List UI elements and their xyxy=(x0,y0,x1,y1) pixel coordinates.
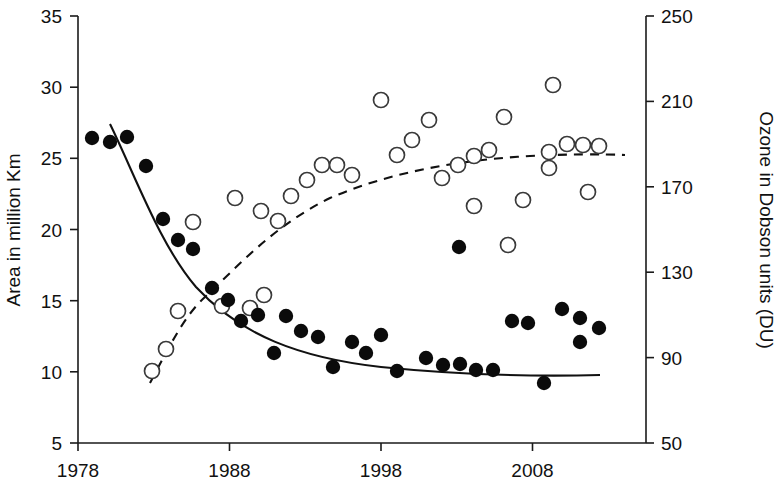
data-point-filled xyxy=(359,346,373,360)
y-left-label-20: 20 xyxy=(41,220,62,241)
y-left-label-30: 30 xyxy=(41,77,62,98)
y-axis-right-title: Ozone in Dobson units (DU) xyxy=(756,111,777,349)
y-left-label-25: 25 xyxy=(41,148,62,169)
data-point-filled xyxy=(156,212,170,226)
data-point-open xyxy=(171,304,186,319)
y-right-label-130: 130 xyxy=(661,262,693,283)
x-label-2008: 2008 xyxy=(511,460,553,481)
y-right-label-50: 50 xyxy=(661,433,682,454)
y-right-label-90: 90 xyxy=(661,348,682,369)
data-point-open xyxy=(467,149,482,164)
y-right-label-250: 250 xyxy=(661,6,693,27)
data-point-filled xyxy=(345,335,359,349)
y-axis-left-ticks xyxy=(70,16,78,443)
data-point-filled xyxy=(171,233,185,247)
data-point-filled xyxy=(139,159,153,173)
data-point-filled xyxy=(374,328,388,342)
data-point-filled xyxy=(436,358,450,372)
y-axis-right-ticks xyxy=(646,16,654,443)
data-point-filled xyxy=(505,314,519,328)
data-point-open xyxy=(159,342,174,357)
x-label-1998: 1998 xyxy=(360,460,402,481)
data-point-filled xyxy=(521,316,535,330)
data-point-open xyxy=(467,199,482,214)
y-right-label-170: 170 xyxy=(661,177,693,198)
data-point-filled xyxy=(267,346,281,360)
data-point-open xyxy=(374,93,389,108)
data-point-open xyxy=(581,185,596,200)
y-left-label-5: 5 xyxy=(51,433,62,454)
data-point-filled xyxy=(279,309,293,323)
data-point-filled xyxy=(186,242,200,256)
data-point-open xyxy=(254,204,269,219)
data-point-open xyxy=(145,364,160,379)
data-point-filled xyxy=(85,131,99,145)
data-point-open xyxy=(546,78,561,93)
data-point-filled xyxy=(390,364,404,378)
data-point-open xyxy=(542,145,557,160)
data-point-filled xyxy=(311,330,325,344)
x-axis-ticks xyxy=(78,443,533,451)
data-point-filled xyxy=(419,351,433,365)
data-point-open xyxy=(186,215,201,230)
data-point-open xyxy=(482,143,497,158)
data-point-filled xyxy=(251,308,265,322)
data-point-open xyxy=(435,171,450,186)
y-left-label-35: 35 xyxy=(41,6,62,27)
data-point-open xyxy=(497,110,512,125)
data-point-filled xyxy=(555,302,569,316)
data-point-filled xyxy=(469,363,483,377)
data-point-filled xyxy=(573,311,587,325)
y-right-label-210: 210 xyxy=(661,91,693,112)
data-point-filled xyxy=(221,293,235,307)
data-point-filled xyxy=(592,321,606,335)
data-point-filled xyxy=(294,324,308,338)
chart-canvas: 35 30 25 20 15 10 5 250 210 170 130 90 5… xyxy=(0,0,783,486)
data-point-open xyxy=(422,113,437,128)
data-point-open xyxy=(390,148,405,163)
axis-lines xyxy=(78,16,646,443)
x-axis-tick-labels: 1978 1988 1998 2008 xyxy=(57,460,554,481)
data-point-filled xyxy=(537,376,551,390)
data-point-open xyxy=(501,238,516,253)
ozone-trend-dashed-curve xyxy=(150,154,625,383)
x-label-1978: 1978 xyxy=(57,460,99,481)
data-point-open xyxy=(405,133,420,148)
data-point-filled xyxy=(452,240,466,254)
data-point-filled xyxy=(205,281,219,295)
data-point-open xyxy=(542,161,557,176)
y-axis-left-tick-labels: 35 30 25 20 15 10 5 xyxy=(41,6,62,454)
data-point-open xyxy=(330,158,345,173)
data-point-filled xyxy=(453,357,467,371)
data-point-open xyxy=(300,173,315,188)
data-point-filled xyxy=(103,135,117,149)
data-point-filled xyxy=(326,360,340,374)
data-point-filled xyxy=(573,335,587,349)
data-point-open xyxy=(516,193,531,208)
data-point-open xyxy=(560,137,575,152)
data-point-filled xyxy=(120,130,134,144)
data-point-filled xyxy=(234,314,248,328)
data-point-open xyxy=(271,214,286,229)
data-point-open xyxy=(592,139,607,154)
y-left-label-10: 10 xyxy=(41,362,62,383)
data-point-open xyxy=(315,158,330,173)
data-point-filled xyxy=(486,363,500,377)
y-axis-right-tick-labels: 250 210 170 130 90 50 xyxy=(661,6,693,454)
ozone-area-chart-figure: 35 30 25 20 15 10 5 250 210 170 130 90 5… xyxy=(0,0,783,486)
data-point-open xyxy=(576,138,591,153)
data-point-open xyxy=(228,191,243,206)
y-left-label-15: 15 xyxy=(41,291,62,312)
x-label-1988: 1988 xyxy=(208,460,250,481)
data-point-open xyxy=(345,168,360,183)
data-point-open xyxy=(451,158,466,173)
data-point-open xyxy=(284,189,299,204)
data-point-open xyxy=(257,288,272,303)
y-axis-left-title: Area in million Km xyxy=(3,153,24,306)
